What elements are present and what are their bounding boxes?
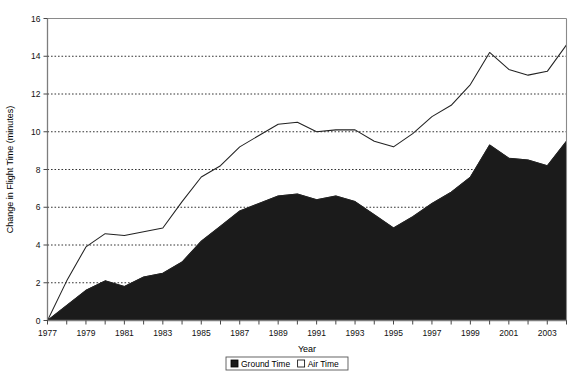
x-tick-label-1995: 1995 <box>384 328 403 338</box>
legend-swatch-ground-time <box>231 360 238 367</box>
x-tick-label-1983: 1983 <box>153 328 172 338</box>
legend-label-ground-time: Ground Time <box>241 359 290 369</box>
x-tick-label-1985: 1985 <box>192 328 211 338</box>
y-tick-label-16: 16 <box>31 14 41 24</box>
y-tick-label-2: 2 <box>36 278 41 288</box>
y-tick-label-4: 4 <box>36 240 41 250</box>
x-tick-label-1997: 1997 <box>422 328 441 338</box>
y-tick-label-12: 12 <box>31 89 41 99</box>
x-tick-label-1993: 1993 <box>346 328 365 338</box>
x-axis-title: Year <box>298 344 316 354</box>
y-tick-label-10: 10 <box>31 127 41 137</box>
x-tick-label-1999: 1999 <box>461 328 480 338</box>
y-tick-label-8: 8 <box>36 165 41 175</box>
chart-container: 0246810121416 19771979198119831985198719… <box>0 0 575 374</box>
x-tick-label-2001: 2001 <box>499 328 518 338</box>
y-tick-label-14: 14 <box>31 51 41 61</box>
legend-label-air-time: Air Time <box>308 359 339 369</box>
y-axis-title: Change in Flight Time (minutes) <box>5 106 15 234</box>
x-tick-label-2003: 2003 <box>538 328 557 338</box>
x-tick-label-1981: 1981 <box>115 328 134 338</box>
legend-swatch-air-time <box>298 360 305 367</box>
area-chart: 0246810121416 19771979198119831985198719… <box>0 0 575 374</box>
x-tick-label-1991: 1991 <box>307 328 326 338</box>
x-tick-label-1977: 1977 <box>38 328 57 338</box>
y-tick-label-0: 0 <box>36 316 41 326</box>
x-tick-label-1979: 1979 <box>76 328 95 338</box>
x-tick-label-1987: 1987 <box>230 328 249 338</box>
x-tick-label-1989: 1989 <box>269 328 288 338</box>
chart-legend: Ground Time Air Time <box>226 357 348 370</box>
y-tick-label-6: 6 <box>36 202 41 212</box>
